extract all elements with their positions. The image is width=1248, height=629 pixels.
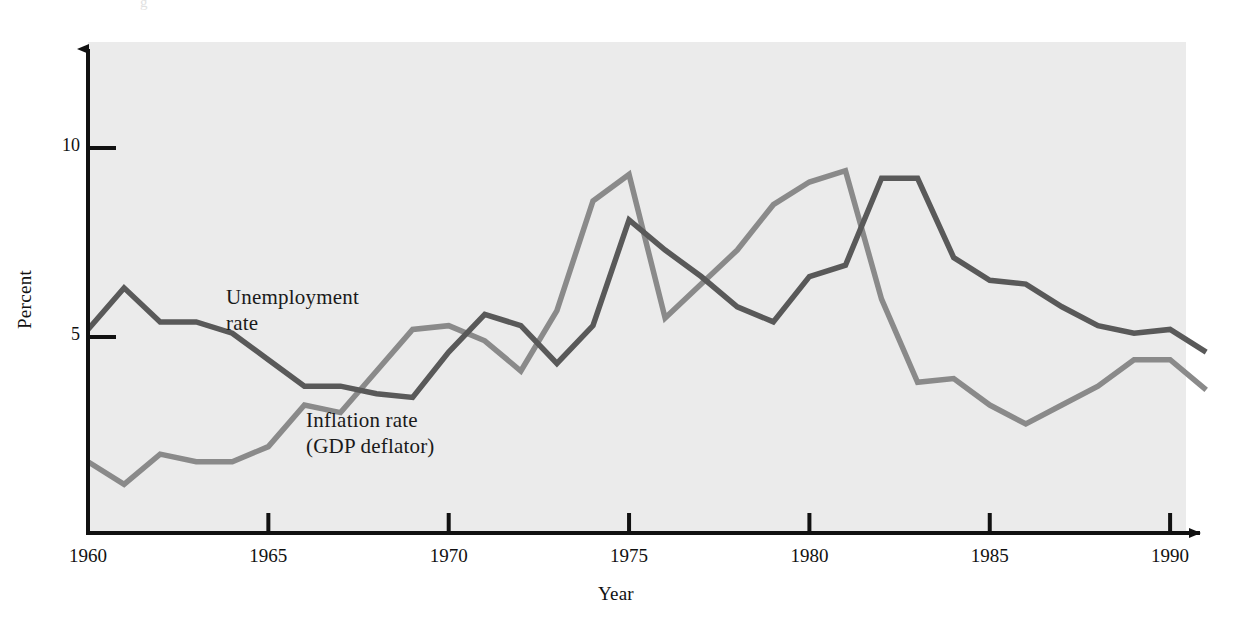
x-tick-label: 1970 [409, 545, 489, 567]
chart-figure: g Percent Year 510 196019651970197519801… [0, 0, 1248, 629]
x-tick-label: 1985 [950, 545, 1030, 567]
x-tick-label: 1975 [589, 545, 669, 567]
chart-canvas [0, 0, 1248, 629]
x-tick-label: 1980 [769, 545, 849, 567]
x-axis-label: Year [598, 583, 634, 605]
y-tick-label: 5 [30, 324, 80, 345]
x-tick-label: 1990 [1130, 545, 1210, 567]
x-tick-label: 1965 [228, 545, 308, 567]
x-tick-label: 1960 [48, 545, 128, 567]
inflation-series-annotation: Inflation rate (GDP deflator) [306, 408, 435, 459]
unemployment-series-annotation: Unemployment rate [226, 285, 359, 336]
y-tick-label: 10 [30, 135, 80, 156]
